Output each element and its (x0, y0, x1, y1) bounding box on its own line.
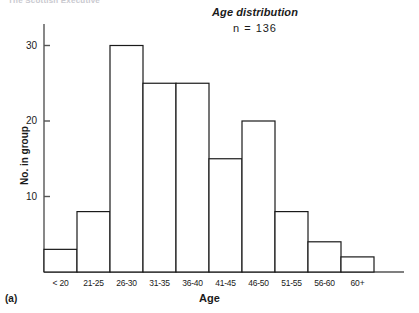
histogram-svg (0, 0, 419, 313)
histogram-bar (308, 242, 341, 272)
histogram-bar (143, 83, 176, 272)
histogram-plot (0, 0, 419, 313)
y-axis-tick-label: 10 (11, 192, 37, 202)
y-axis-tick-label: 30 (11, 41, 37, 51)
histogram-bar (242, 121, 275, 272)
histogram-bar (110, 46, 143, 273)
histogram-bar (341, 257, 374, 272)
x-axis-tick-label: 60+ (335, 279, 380, 288)
panel-label: (a) (5, 293, 17, 304)
histogram-bar (176, 83, 209, 272)
histogram-bar (44, 249, 77, 272)
histogram-bar (275, 212, 308, 272)
histogram-bar (77, 212, 110, 272)
x-axis-title: Age (0, 292, 419, 304)
histogram-bar (209, 159, 242, 272)
y-axis-tick-label: 20 (11, 116, 37, 126)
